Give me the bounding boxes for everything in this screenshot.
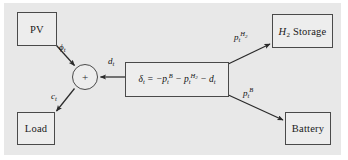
equation-delta-subscript: t: [143, 78, 145, 85]
edge-label-p-b: ptB: [243, 89, 253, 98]
equation-term3-subscript: t: [214, 78, 216, 85]
node-h2-storage-label: H2 Storage: [279, 26, 327, 37]
equation-term2-superscript-subscript: 2: [195, 75, 198, 80]
edge-label-p-b-subscript: t: [248, 92, 250, 99]
node-load: Load: [17, 112, 55, 145]
edge-label-p-h2-superscript: H2: [240, 30, 247, 37]
edge-label-phi-base: ϕ: [59, 42, 64, 52]
equation-term3-base: d: [209, 74, 214, 84]
node-battery-label: Battery: [292, 123, 324, 134]
edge-label-p-h2: ptH2: [234, 33, 248, 42]
node-h2-storage-label-suffix: Storage: [290, 26, 326, 37]
node-load-label: Load: [25, 123, 47, 134]
edge-label-d-base: d: [108, 56, 113, 66]
edge-label-d: dt: [108, 57, 114, 66]
node-h2-storage-label-subscript: 2: [286, 31, 290, 39]
edge-label-p-h2-base: p: [234, 32, 239, 42]
diagram-canvas: PV Load H2 Storage Battery δt = −ptB − p…: [0, 0, 348, 160]
edge-label-phi: ϕt: [59, 43, 65, 52]
edge-label-p-b-superscript: B: [249, 86, 253, 93]
edge-label-p-b-base: p: [243, 88, 248, 98]
node-equation-box: δt = −ptB − ptH2 − dt: [125, 62, 229, 97]
edge-label-c-subscript: t: [55, 95, 57, 102]
edge-label-p-h2-subscript: t: [239, 36, 241, 43]
node-battery: Battery: [285, 112, 331, 145]
edge-label-d-subscript: t: [113, 60, 115, 67]
edge-equation-to-h2: [224, 44, 270, 66]
edge-equation-to-battery: [224, 93, 283, 120]
edge-sum-to-load: [57, 89, 75, 112]
equation-term2-superscript: H2: [191, 72, 198, 79]
equation-text: δt = −ptB − ptH2 − dt: [138, 75, 215, 85]
node-pv-label: PV: [30, 24, 44, 35]
equation-minus-2: −: [198, 74, 209, 84]
equation-term1-superscript: B: [169, 72, 173, 79]
node-summation: +: [72, 64, 98, 90]
edge-label-c: ct: [51, 92, 57, 101]
edge-label-p-h2-superscript-subscript: 2: [245, 34, 248, 39]
node-h2-storage: H2 Storage: [272, 14, 333, 48]
summation-plus-label: +: [82, 72, 88, 83]
edge-label-phi-subscript: t: [64, 46, 66, 53]
equation-minus-1: −: [173, 74, 184, 84]
node-pv: PV: [17, 12, 57, 46]
equation-equals: = −: [145, 74, 163, 84]
